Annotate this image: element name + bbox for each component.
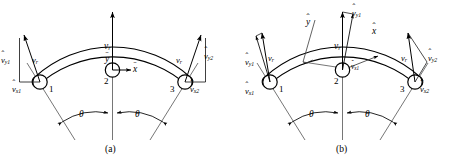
theta-arc-a-left [62, 112, 108, 122]
node-label-a-1: 1 [49, 84, 54, 94]
label-b-vhat-x2: ˆvx2 [420, 85, 429, 95]
label-a-theta-right: θ [135, 110, 140, 120]
label-b-vhat-y1-left: ˆvy1 [245, 58, 254, 68]
panel-b-graphics [256, 12, 428, 140]
label-b-vr-center: vr [334, 42, 341, 52]
label-a-vr-right: vr [176, 56, 182, 66]
node-label-b-2: 2 [334, 76, 339, 86]
label-a-vhat-x1: ˆvx1 [12, 85, 21, 95]
label-a-y-bar-axis: ˉy [105, 55, 109, 65]
vr-arrow-b-right [408, 33, 415, 82]
label-b-vr-right: vr [401, 54, 407, 64]
label-b-y-hat-axis: ˆy [306, 18, 310, 28]
label-b-theta-right: θ [365, 110, 370, 120]
vhat-x1-comp-b-left [256, 33, 262, 36]
figure-vector-graphics [0, 0, 457, 165]
label-b-vr-left: vr [268, 54, 274, 64]
label-a-vr-left: vr [32, 56, 38, 66]
vhat-y2-comp-b [408, 33, 427, 62]
label-b-theta-left: θ [309, 110, 314, 120]
label-b-x-hat-axis: ˆx [372, 27, 376, 37]
theta-arc-b-right [347, 112, 393, 122]
vr-arrow-a-right [185, 35, 201, 82]
node-label-a-2: 2 [104, 76, 109, 86]
label-a-x-bar-axis: ˉx [133, 65, 137, 75]
node-label-b-3: 3 [400, 84, 405, 94]
theta-arc-a-right [117, 112, 163, 122]
right-angle-edge-b [303, 62, 336, 67]
label-a-theta-left: θ [79, 110, 84, 120]
node-label-a-3: 3 [170, 84, 175, 94]
label-b-vhat-y1-center: ˆvy1 [352, 9, 361, 19]
label-b-vhat-x1-left: ˆvx1 [245, 87, 254, 97]
label-a-vhat-y2: ˆvy2 [204, 52, 213, 62]
panel-a-graphics [20, 12, 206, 140]
label-b-vhat-x1-center: ˆvx1 [351, 63, 359, 71]
label-a-vhat-x2: ˆvx2 [190, 85, 199, 95]
caption-b: (b) [336, 144, 347, 154]
theta-arc-b-left [292, 112, 338, 122]
label-a-vhat-y1: ˆvy1 [1, 56, 10, 66]
label-b-vhat-y2: ˆvy2 [428, 54, 437, 64]
node-label-b-1: 1 [279, 84, 284, 94]
curved-beam-velocity-figure: vr ˉy ˉx ˆvy1 vr ˆvx1 vr ˆvy2 ˆvx2 1 2 3… [0, 0, 457, 165]
caption-a: (a) [105, 144, 116, 154]
